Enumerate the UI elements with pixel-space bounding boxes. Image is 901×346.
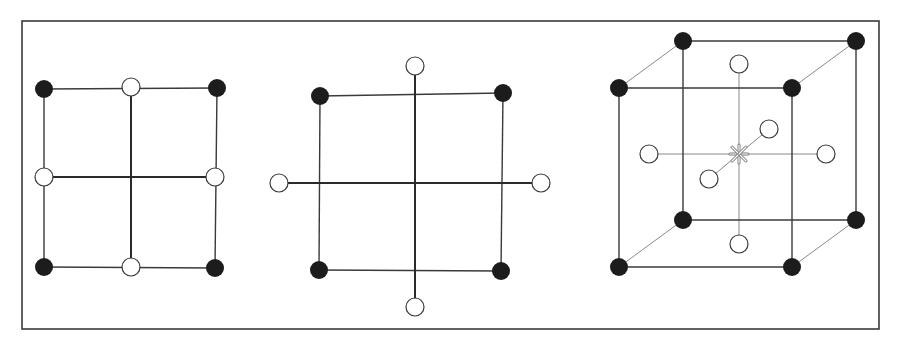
factorial-point-icon [610,79,628,97]
axial-point-icon [35,168,53,186]
axial-point-icon [270,174,288,192]
axial-point-icon [700,170,718,188]
factorial-point-icon [674,32,692,50]
factorial-point-icon [492,262,510,280]
factorial-point-icon [35,258,53,276]
circumscribed-ccd-panel [270,57,550,316]
axial-point-icon [760,120,778,138]
factorial-point-icon [610,258,628,276]
factorial-point-icon [35,80,53,98]
axial-point-icon [532,174,550,192]
center-point-asterisk-icon [730,145,748,163]
connector-line [619,41,683,88]
face-centered-design-panel [35,78,226,277]
axial-point-icon [730,235,748,253]
ccd-3d-cube-panel [610,32,865,276]
factorial-point-icon [310,261,328,279]
factorial-point-icon [847,32,865,50]
axial-point-icon [122,78,140,96]
axial-point-icon [640,145,658,163]
diagram-stage [0,0,901,346]
axial-point-icon [406,57,424,75]
edge-line [320,93,503,96]
factorial-point-icon [847,211,865,229]
factorial-point-icon [494,84,512,102]
axial-point-icon [817,145,835,163]
factorial-point-icon [783,79,801,97]
connector-line [792,220,856,267]
axial-point-icon [122,258,140,276]
connector-line [792,41,856,88]
factorial-point-icon [208,79,226,97]
axial-point-icon [206,168,224,186]
design-diagram [0,0,901,346]
axial-point-icon [730,55,748,73]
factorial-point-icon [311,87,329,105]
figure-frame [22,21,879,329]
factorial-point-icon [783,258,801,276]
connector-line [619,220,683,267]
factorial-point-icon [206,259,224,277]
edge-line [319,270,501,271]
factorial-point-icon [674,211,692,229]
axial-point-icon [406,298,424,316]
